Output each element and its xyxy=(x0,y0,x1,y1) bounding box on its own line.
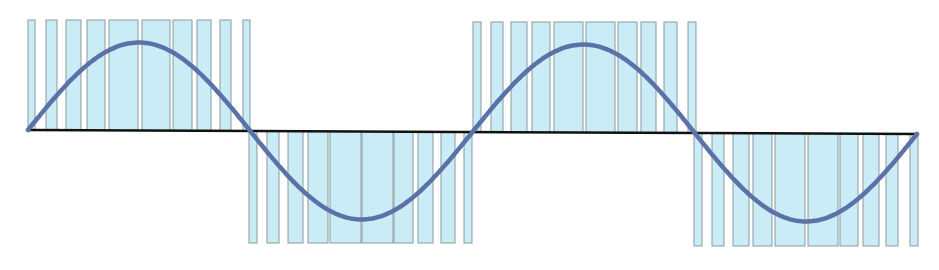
pwm-pulse xyxy=(473,22,481,132)
pwm-pulse xyxy=(712,133,724,246)
pwm-pulse xyxy=(441,132,455,243)
pwm-pulse xyxy=(586,22,615,133)
pwm-pulse xyxy=(46,20,57,130)
pwm-pulse xyxy=(142,20,170,131)
pwm-pulse xyxy=(618,22,637,133)
pwm-pulse xyxy=(249,131,257,243)
pwm-diagram xyxy=(0,0,939,270)
pwm-pulse xyxy=(664,22,677,133)
pwm-pulse xyxy=(688,22,696,133)
pwm-pulse xyxy=(775,133,805,246)
pwm-pulse xyxy=(330,131,361,243)
pwm-pulse xyxy=(554,22,583,132)
pwm-pulse xyxy=(220,20,231,131)
pwm-pulse xyxy=(308,131,328,243)
pwm-pulse xyxy=(464,132,472,243)
pwm-pulse xyxy=(808,134,838,246)
pwm-pulse xyxy=(886,134,898,246)
pwm-pulse xyxy=(87,20,105,130)
pwm-pulse xyxy=(491,22,503,132)
pwm-pulse xyxy=(243,20,250,131)
pwm-pulse xyxy=(753,133,772,246)
pwm-pulse xyxy=(840,134,858,246)
pwm-diagram-canvas xyxy=(0,0,939,270)
pwm-pulse xyxy=(267,131,279,243)
pwm-pulse xyxy=(109,20,138,130)
pwm-pulse xyxy=(910,134,918,246)
pwm-pulse xyxy=(28,20,35,130)
pwm-pulse xyxy=(694,133,702,246)
pwm-pulse xyxy=(532,22,550,132)
pwm-pulse xyxy=(362,132,393,243)
pwm-pulse xyxy=(394,132,413,243)
pwm-pulse xyxy=(173,20,192,131)
